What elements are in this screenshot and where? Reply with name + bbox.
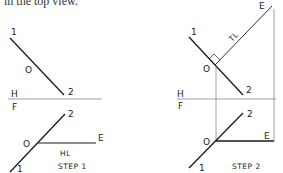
step2-fold-h: H: [177, 89, 184, 99]
step1-front-label-2: 2: [68, 109, 74, 119]
step1-fold-h: H: [11, 89, 18, 99]
step2-fold-f: F: [178, 101, 183, 111]
step2-front-label-e: E: [264, 131, 270, 141]
step1-title: STEP 1: [58, 162, 87, 171]
step1-front-label-1: 1: [17, 164, 23, 173]
step1-top-line: [10, 38, 64, 95]
step2-top-label-1: 1: [191, 27, 197, 37]
step2-tl-line: [215, 6, 272, 65]
step1-top-label-o: O: [25, 65, 32, 75]
step2-tl-label: TL: [226, 30, 240, 44]
step2-front-label-2: 2: [247, 109, 253, 119]
step2-title: STEP 2: [232, 162, 261, 171]
step1-front-label-e: E: [98, 133, 104, 143]
orthographic-diagram: 1 O 2 H F 2 O E 1 HL STEP 1 1 O 2 E TL H…: [0, 0, 283, 173]
step1-top-label-1: 1: [11, 27, 17, 37]
step2-top-label-o: O: [203, 64, 210, 74]
step1-fold-f: F: [12, 102, 17, 112]
step2-front-label-1: 1: [199, 163, 205, 173]
step2-top-label-2: 2: [246, 85, 252, 95]
right-angle-marker: [209, 54, 220, 60]
step1-hl-label: HL: [60, 149, 71, 158]
step1-top-label-2: 2: [68, 87, 74, 97]
step2-diagram: 1 O 2 E TL H F 2 O E 1 STEP 2: [177, 1, 276, 173]
step2-top-label-e: E: [259, 1, 265, 11]
step1-front-label-o: O: [23, 139, 30, 149]
step1-diagram: 1 O 2 H F 2 O E 1 HL STEP 1: [8, 27, 104, 173]
step2-front-label-o: O: [203, 137, 210, 147]
